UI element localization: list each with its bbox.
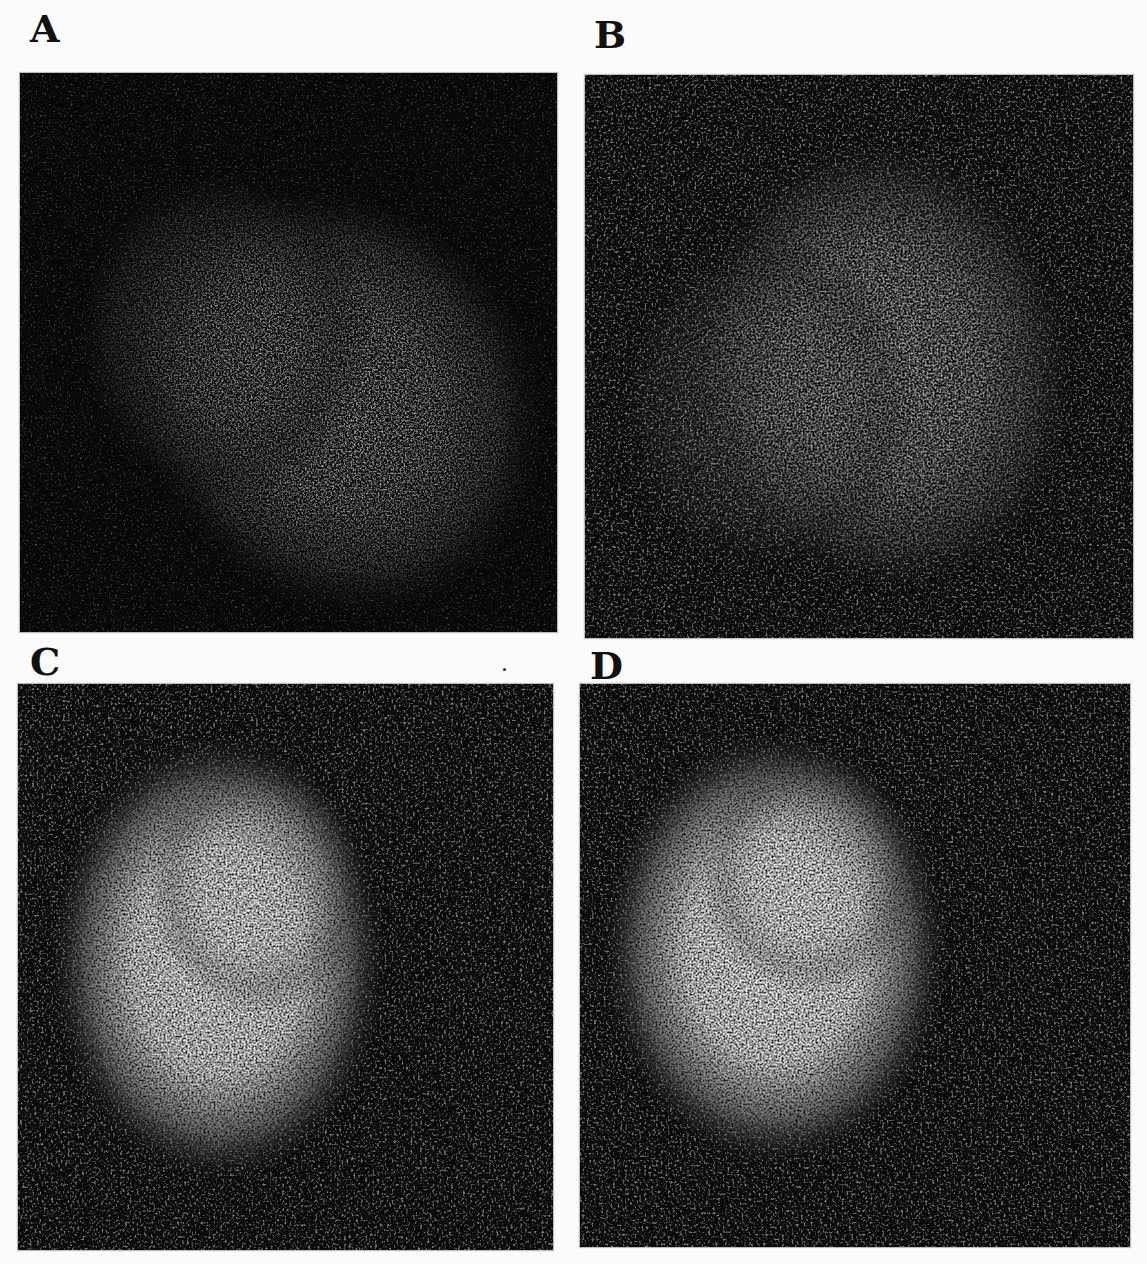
scintigram-d-graphic — [580, 684, 1130, 1247]
panel-label-c: C — [30, 643, 60, 681]
panel-a-image — [20, 73, 557, 632]
scintigram-a-graphic — [20, 73, 557, 632]
scintigram-b-graphic — [585, 75, 1133, 638]
panel-d-image — [580, 684, 1130, 1247]
panel-b-image — [585, 75, 1133, 638]
panel-label-d: D — [590, 647, 623, 685]
panel-label-b: B — [594, 16, 626, 54]
scintigram-c-graphic — [18, 684, 553, 1250]
figure: A — [0, 0, 1147, 1264]
stray-mark — [503, 668, 506, 671]
panel-label-a: A — [30, 10, 59, 48]
panel-c-image — [18, 684, 553, 1250]
